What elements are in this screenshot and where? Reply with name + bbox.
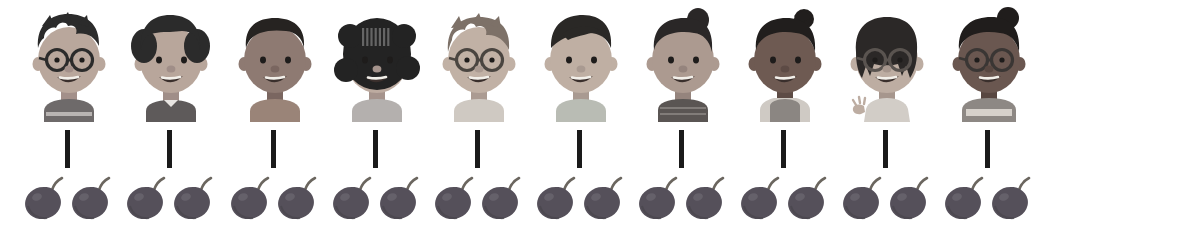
- plum-icon: [738, 176, 783, 222]
- plum-icon: [840, 176, 885, 222]
- group-column-6: [528, 0, 632, 230]
- child-figure-boy-light-hair-glasses: [426, 6, 530, 122]
- plum-icon: [581, 176, 626, 222]
- fruit-group-4: [324, 176, 428, 224]
- plum-icon: [171, 176, 216, 222]
- plum-icon: [683, 176, 728, 222]
- connector-bar-6: [577, 130, 582, 168]
- plum-icon: [275, 176, 320, 222]
- child-figure-girl-with-pigtails: [118, 6, 222, 122]
- plum-icon: [636, 176, 681, 222]
- fruit-group-2: [118, 176, 222, 224]
- group-column-4: [324, 0, 428, 230]
- plum-icon: [377, 176, 422, 222]
- fruit-group-7: [630, 176, 734, 224]
- plum-icon: [785, 176, 830, 222]
- plum-icon: [330, 176, 375, 222]
- child-figure-boy-with-glasses: [16, 6, 120, 122]
- connector-bar-9: [883, 130, 888, 168]
- child-figure-girl-waving-with-glasses: [834, 6, 938, 122]
- plum-icon: [69, 176, 114, 222]
- fruit-group-5: [426, 176, 530, 224]
- plum-icon: [124, 176, 169, 222]
- child-figure-girl-topknot: [630, 6, 734, 122]
- plum-icon: [479, 176, 524, 222]
- child-figure-girl-bun-with-bow: [732, 6, 836, 122]
- fruit-group-10: [936, 176, 1040, 224]
- fruit-group-8: [732, 176, 836, 224]
- fruit-group-6: [528, 176, 632, 224]
- connector-bar-8: [781, 130, 786, 168]
- child-figure-boy-short-hair: [222, 6, 326, 122]
- plum-icon: [534, 176, 579, 222]
- group-column-10: [936, 0, 1040, 230]
- group-column-5: [426, 0, 530, 230]
- plum-icon: [228, 176, 273, 222]
- connector-bar-4: [373, 130, 378, 168]
- child-figure-boy-side-swept-hair: [528, 6, 632, 122]
- group-column-7: [630, 0, 734, 230]
- group-column-8: [732, 0, 836, 230]
- plum-icon: [432, 176, 477, 222]
- plum-icon: [942, 176, 987, 222]
- child-figure-girl-bun-glasses-striped-shirt: [936, 6, 1040, 122]
- group-column-3: [222, 0, 326, 230]
- diagram-canvas: [0, 0, 1193, 230]
- group-column-1: [16, 0, 120, 230]
- group-column-9: [834, 0, 938, 230]
- fruit-group-9: [834, 176, 938, 224]
- connector-bar-10: [985, 130, 990, 168]
- connector-bar-7: [679, 130, 684, 168]
- connector-bar-1: [65, 130, 70, 168]
- fruit-group-1: [16, 176, 120, 224]
- plum-icon: [989, 176, 1034, 222]
- connector-bar-3: [271, 130, 276, 168]
- connector-bar-5: [475, 130, 480, 168]
- plum-icon: [22, 176, 67, 222]
- plum-icon: [887, 176, 932, 222]
- fruit-group-3: [222, 176, 326, 224]
- group-column-2: [118, 0, 222, 230]
- child-figure-girl-curly-bob: [324, 6, 428, 122]
- connector-bar-2: [167, 130, 172, 168]
